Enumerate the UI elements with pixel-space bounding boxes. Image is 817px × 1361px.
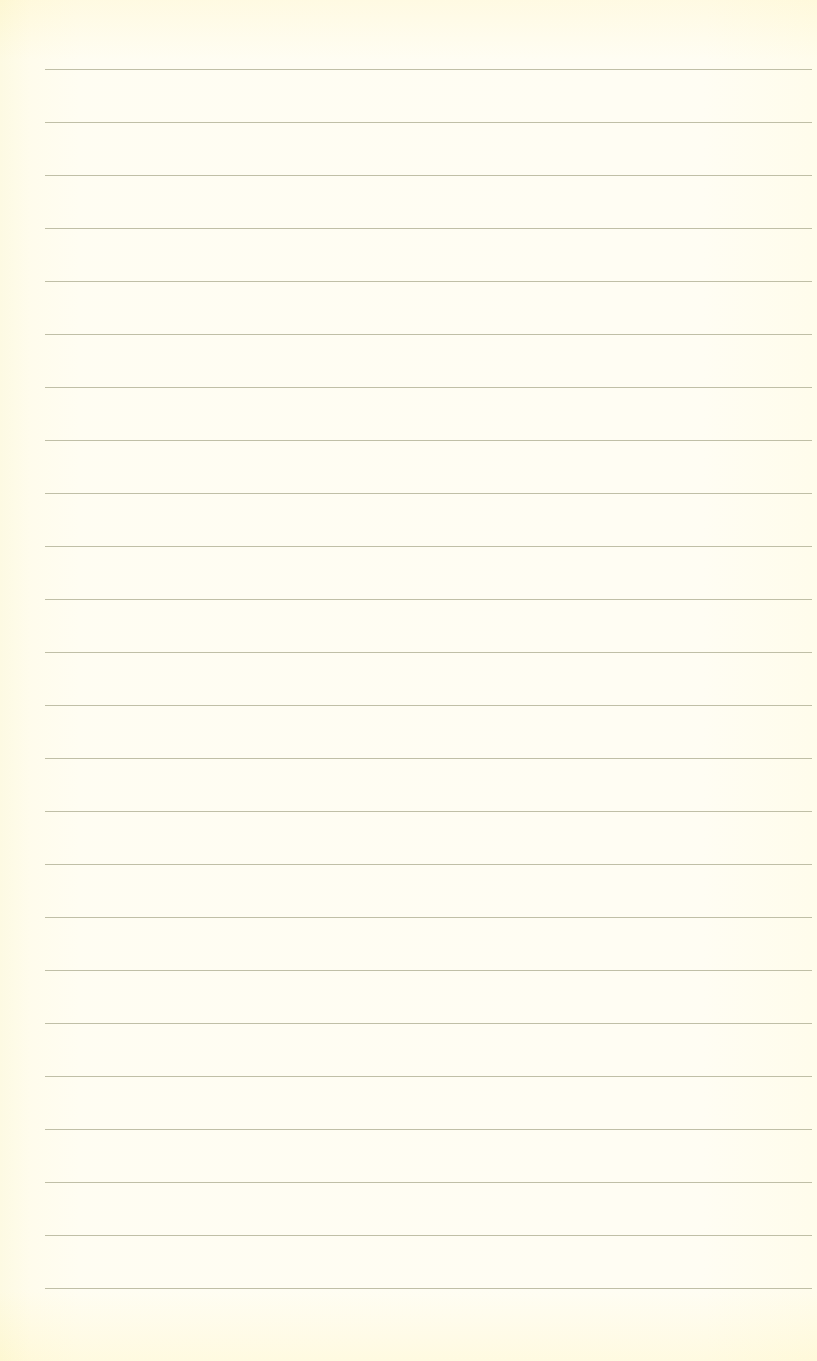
ruled-line [45, 811, 812, 812]
ruled-line [45, 387, 812, 388]
ruled-line [45, 122, 812, 123]
ruled-line [45, 175, 812, 176]
ruled-line [45, 1235, 812, 1236]
ruled-line [45, 69, 812, 70]
ruled-paper-sheet [0, 0, 817, 1361]
ruled-line [45, 970, 812, 971]
ruled-line [45, 334, 812, 335]
ruled-line [45, 652, 812, 653]
ruled-line [45, 864, 812, 865]
ruled-line [45, 1076, 812, 1077]
ruled-line [45, 705, 812, 706]
ruled-line [45, 281, 812, 282]
ruled-line [45, 228, 812, 229]
ruled-line [45, 546, 812, 547]
ruled-line [45, 917, 812, 918]
ruled-line [45, 493, 812, 494]
ruled-line [45, 1288, 812, 1289]
ruled-line [45, 440, 812, 441]
ruled-line [45, 599, 812, 600]
ruled-line [45, 1129, 812, 1130]
ruled-line [45, 758, 812, 759]
ruled-line [45, 1023, 812, 1024]
ruled-line [45, 1182, 812, 1183]
